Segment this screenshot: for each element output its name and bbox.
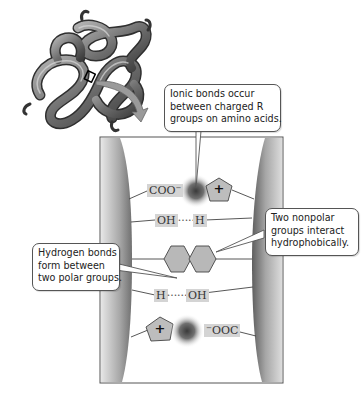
callout-line: hydrophobically. bbox=[271, 237, 353, 250]
hydrogen-label-bottom: H bbox=[154, 289, 168, 302]
callout-line: groups on amino acids. bbox=[170, 113, 275, 126]
callout-line: Two nonpolar bbox=[271, 212, 353, 225]
protein-ribbon-icon bbox=[24, 11, 150, 130]
hydrophobic-callout: Two nonpolar groups interact hydrophobic… bbox=[265, 208, 359, 256]
hydrogen-label-top: H bbox=[193, 214, 207, 227]
tertiary-structure-diagram: COO− + OH •••••• H H ••••••• OH + −OOC I… bbox=[0, 0, 364, 400]
carboxylate-label-bottom: −OOC bbox=[204, 324, 240, 337]
callout-line: form between bbox=[38, 260, 114, 273]
plus-sign-bottom: + bbox=[150, 321, 170, 336]
hydrogen-bonds-callout: Hydrogen bonds form between two polar gr… bbox=[32, 243, 120, 291]
callout-line: between charged R bbox=[170, 101, 275, 114]
plus-sign-top: + bbox=[209, 181, 229, 196]
ionic-bonds-callout: Ionic bonds occur between charged R grou… bbox=[164, 84, 281, 132]
hydroxyl-label-top: OH bbox=[155, 214, 178, 227]
ionic-bond-glow-bottom bbox=[170, 314, 204, 348]
callout-line: Hydrogen bonds bbox=[38, 247, 114, 260]
callout-line: two polar groups. bbox=[38, 272, 114, 285]
diagram-graphics bbox=[0, 0, 364, 400]
carboxylate-label-top: COO− bbox=[147, 184, 183, 197]
callout-line: groups interact bbox=[271, 225, 353, 238]
hydroxyl-label-bottom: OH bbox=[186, 289, 209, 302]
callout-line: Ionic bonds occur bbox=[170, 88, 275, 101]
